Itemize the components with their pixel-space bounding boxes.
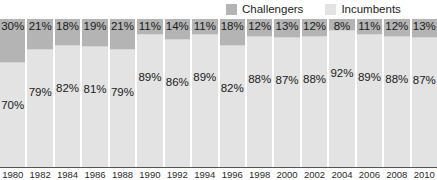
bar-segment-incumbents: 87% [412, 38, 437, 167]
chart-legend: Challengers Incumbents [226, 1, 401, 17]
bar-value-challengers: 14% [165, 20, 190, 32]
x-axis-tick-label: 1984 [55, 169, 80, 180]
x-axis-tick-label: 1988 [110, 169, 135, 180]
bar-value-incumbents: 82% [55, 82, 80, 94]
bar-segment-challengers: 30% [0, 19, 25, 63]
bar-segment-incumbents: 70% [0, 63, 25, 167]
bar-segment-challengers: 21% [110, 19, 135, 50]
bar-segment-challengers: 12% [247, 19, 272, 37]
bar-column: 12%88% [302, 19, 327, 167]
bar-segment-incumbents: 89% [192, 35, 217, 167]
legend-item-incumbents: Incumbents [325, 4, 400, 15]
bar-segment-incumbents: 86% [165, 40, 190, 167]
legend-swatch-incumbents [325, 4, 336, 15]
bar-value-challengers: 11% [357, 20, 382, 32]
x-axis-tick-label: 1996 [220, 169, 245, 180]
bar-column: 8%92% [329, 19, 354, 167]
bar-segment-incumbents: 88% [247, 37, 272, 167]
x-axis-tick-label: 1998 [247, 169, 272, 180]
bar-value-challengers: 12% [302, 20, 327, 32]
bar-segment-challengers: 8% [329, 19, 354, 31]
bar-column: 14%86% [165, 19, 190, 167]
bar-segment-challengers: 18% [220, 19, 245, 46]
bar-value-incumbents: 88% [247, 73, 272, 85]
bar-value-challengers: 13% [412, 20, 437, 32]
bar-value-incumbents: 87% [274, 74, 299, 86]
bar-segment-incumbents: 81% [82, 47, 107, 167]
bar-segment-incumbents: 89% [137, 35, 162, 167]
bar-segment-incumbents: 79% [110, 50, 135, 167]
x-axis-tick-label: 2004 [329, 169, 354, 180]
x-axis-tick-label: 2000 [274, 169, 299, 180]
bar-column: 21%79% [110, 19, 135, 167]
bar-column: 30%70% [0, 19, 25, 167]
bar-value-incumbents: 82% [220, 82, 245, 94]
bar-value-challengers: 19% [82, 20, 107, 32]
bar-value-challengers: 21% [110, 20, 135, 32]
x-axis-tick-label: 1990 [137, 169, 162, 180]
bar-value-challengers: 30% [0, 20, 25, 32]
bar-value-incumbents: 89% [137, 71, 162, 83]
bar-segment-incumbents: 79% [27, 50, 52, 167]
x-axis-tick-label: 1986 [82, 169, 107, 180]
bar-segment-challengers: 12% [384, 19, 409, 37]
bar-column: 18%82% [55, 19, 80, 167]
bar-column: 11%89% [137, 19, 162, 167]
bar-column: 12%88% [247, 19, 272, 167]
bar-value-incumbents: 89% [357, 71, 382, 83]
bar-column: 21%79% [27, 19, 52, 167]
legend-label-challengers: Challengers [242, 4, 303, 15]
bar-column: 12%88% [384, 19, 409, 167]
bar-segment-incumbents: 89% [357, 35, 382, 167]
plot-area: 30%70%21%79%18%82%19%81%21%79%11%89%14%8… [0, 19, 437, 167]
bar-value-challengers: 11% [192, 20, 217, 32]
x-axis-tick-label: 1982 [27, 169, 52, 180]
bar-segment-challengers: 14% [165, 19, 190, 40]
x-axis-tick-label: 1992 [165, 169, 190, 180]
bar-value-challengers: 18% [220, 20, 245, 32]
bar-segment-challengers: 21% [27, 19, 52, 50]
bar-segment-incumbents: 82% [220, 46, 245, 167]
bar-segment-challengers: 18% [55, 19, 80, 46]
bar-value-challengers: 12% [247, 20, 272, 32]
bar-value-incumbents: 70% [0, 99, 25, 111]
x-axis-tick-label: 2010 [412, 169, 437, 180]
stacked-bar-chart: Challengers Incumbents 30%70%21%79%18%82… [0, 0, 437, 180]
bar-segment-challengers: 11% [192, 19, 217, 35]
bar-column: 11%89% [357, 19, 382, 167]
legend-label-incumbents: Incumbents [341, 4, 400, 15]
bar-value-incumbents: 88% [302, 73, 327, 85]
bar-value-challengers: 13% [274, 20, 299, 32]
bar-column: 11%89% [192, 19, 217, 167]
bar-segment-challengers: 12% [302, 19, 327, 37]
x-axis-tick-label: 1980 [0, 169, 25, 180]
bar-value-incumbents: 86% [165, 76, 190, 88]
bar-value-incumbents: 87% [412, 74, 437, 86]
bar-value-incumbents: 79% [110, 86, 135, 98]
legend-item-challengers: Challengers [226, 4, 303, 15]
x-axis-labels: 1980198219841986198819901992199419961998… [0, 169, 437, 180]
bar-value-incumbents: 89% [192, 71, 217, 83]
x-axis-tick-label: 2008 [384, 169, 409, 180]
bar-column: 19%81% [82, 19, 107, 167]
bar-segment-incumbents: 92% [329, 31, 354, 167]
bar-column: 13%87% [274, 19, 299, 167]
bar-value-challengers: 11% [137, 20, 162, 32]
bar-segment-incumbents: 87% [274, 38, 299, 167]
bar-column: 13%87% [412, 19, 437, 167]
bar-column: 18%82% [220, 19, 245, 167]
x-axis-tick-label: 2002 [302, 169, 327, 180]
bar-segment-challengers: 11% [137, 19, 162, 35]
x-axis-tick-label: 1994 [192, 169, 217, 180]
bar-segment-challengers: 13% [412, 19, 437, 38]
x-axis-tick-label: 2006 [357, 169, 382, 180]
bar-segment-incumbents: 88% [384, 37, 409, 167]
bar-value-incumbents: 79% [27, 86, 52, 98]
bar-value-challengers: 18% [55, 20, 80, 32]
bar-value-incumbents: 92% [329, 67, 354, 79]
bar-value-challengers: 12% [384, 20, 409, 32]
bar-value-incumbents: 88% [384, 73, 409, 85]
bar-segment-challengers: 11% [357, 19, 382, 35]
bar-segment-incumbents: 88% [302, 37, 327, 167]
legend-swatch-challengers [226, 4, 237, 15]
